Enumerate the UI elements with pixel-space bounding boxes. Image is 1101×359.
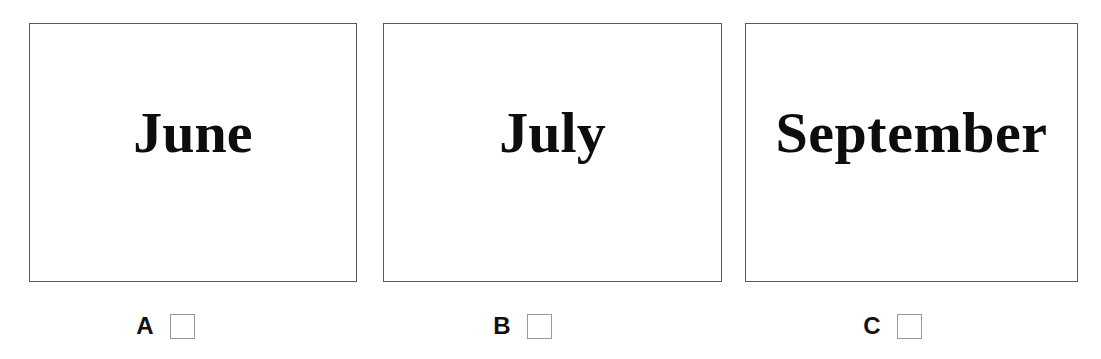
answer-checkbox-a[interactable] <box>170 314 195 339</box>
answer-row-b: B <box>492 310 552 342</box>
month-card-june[interactable]: June <box>29 23 357 282</box>
month-card-september[interactable]: September <box>745 23 1078 282</box>
answer-row-a: A <box>135 310 195 342</box>
answer-label-a: A <box>135 314 155 338</box>
answer-checkbox-b[interactable] <box>527 314 552 339</box>
month-word-september: September <box>776 104 1048 162</box>
month-word-june: June <box>133 104 252 162</box>
answer-checkbox-c[interactable] <box>897 314 922 339</box>
worksheet-canvas: June A July B September C <box>0 0 1101 359</box>
answer-label-c: C <box>862 314 882 338</box>
month-card-july[interactable]: July <box>383 23 722 282</box>
month-word-july: July <box>499 104 605 162</box>
answer-row-c: C <box>862 310 922 342</box>
answer-label-b: B <box>492 314 512 338</box>
